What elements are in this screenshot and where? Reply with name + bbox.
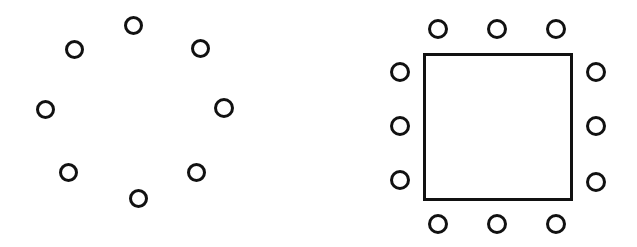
square-outline [423, 53, 573, 201]
border-circle-bottom-left [428, 214, 448, 234]
border-circle-right-bottom [586, 172, 606, 192]
border-circle-right-top [586, 62, 606, 82]
border-circle-left-bottom [390, 170, 410, 190]
border-circle-bottom-right [546, 214, 566, 234]
border-circle-left-top [390, 62, 410, 82]
border-circle-bottom-center [487, 214, 507, 234]
border-circle-top-right [546, 19, 566, 39]
border-circle-top-left [428, 19, 448, 39]
border-circle-top-center [487, 19, 507, 39]
right-figure-square-with-circles [0, 0, 637, 247]
border-circle-left-middle [390, 116, 410, 136]
border-circle-right-middle [586, 116, 606, 136]
figure-canvas [0, 0, 637, 247]
